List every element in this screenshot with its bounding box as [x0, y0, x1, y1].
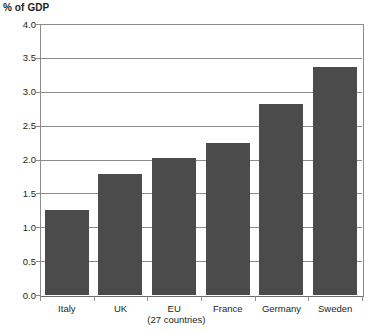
y-axis-tick-label: 3.5 [6, 53, 36, 63]
bar-slot [94, 24, 148, 295]
y-axis-tick-label: 1.0 [6, 223, 36, 233]
bar-chart: % of GDP 0.00.51.01.52.02.53.03.54.0 Ita… [0, 0, 371, 332]
bar [259, 104, 303, 295]
bars-layer [40, 24, 362, 295]
y-axis-tick-label: 2.5 [6, 121, 36, 131]
x-axis-label-text: Sweden [318, 303, 352, 314]
y-axis-tick-label: 3.0 [6, 87, 36, 97]
bar [206, 143, 250, 295]
x-axis-tick-mark [308, 296, 309, 301]
x-axis-label-text: UK [114, 303, 127, 314]
x-axis-label-text: Germany [262, 303, 301, 314]
bar-slot [255, 24, 309, 295]
bar-slot [147, 24, 201, 295]
x-axis-tick-mark [147, 296, 148, 301]
x-axis-tick-mark [40, 296, 41, 301]
bar-slot [201, 24, 255, 295]
bar [313, 67, 357, 295]
x-axis-label-text: Italy [58, 303, 75, 314]
y-axis-tick-label: 0.5 [6, 257, 36, 267]
y-axis-tick-label: 2.0 [6, 155, 36, 165]
x-axis-label: Germany [255, 303, 309, 314]
x-axis-label-sublabel: (27 countries) [147, 314, 201, 326]
x-axis-label-text: EU [168, 303, 181, 314]
y-axis-tick-label: 1.5 [6, 189, 36, 199]
x-axis-tick-mark [94, 296, 95, 301]
x-axis-label: Sweden [308, 303, 362, 314]
x-axis-tick-mark [255, 296, 256, 301]
x-axis-label: UK [94, 303, 148, 314]
bar [98, 174, 142, 295]
y-axis-title: % of GDP [3, 2, 49, 14]
y-axis-tick-label: 4.0 [6, 20, 36, 30]
x-axis-label: EU(27 countries) [147, 303, 201, 326]
x-axis-tick-mark [201, 296, 202, 301]
bar-slot [40, 24, 94, 295]
bar [45, 210, 89, 295]
y-axis-tick-label: 0.0 [6, 291, 36, 301]
x-axis-label: Italy [40, 303, 94, 314]
bar-slot [308, 24, 362, 295]
bar [152, 158, 196, 295]
x-axis-tick-mark [362, 296, 363, 301]
x-axis-label-text: France [213, 303, 243, 314]
x-axis-label: France [201, 303, 255, 314]
